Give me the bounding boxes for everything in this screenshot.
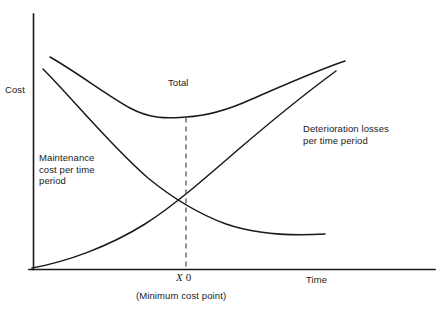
- figure-container: Cost Total Deterioration losses per time…: [0, 0, 442, 310]
- maintenance-cost-curve-label: Maintenance cost per time period: [39, 152, 95, 187]
- total-cost-curve: [50, 57, 345, 118]
- total-cost-curve-label: Total: [168, 77, 189, 89]
- optimum-symbol-subscript: 0: [186, 271, 192, 283]
- optimum-symbol-x: X: [176, 271, 183, 283]
- x-axis-label: Time: [306, 274, 327, 286]
- minimum-cost-point-note: (Minimum cost point): [136, 290, 226, 302]
- optimum-point-symbol: X 0: [176, 272, 191, 284]
- deterioration-losses-curve-label: Deterioration losses per time period: [303, 123, 389, 146]
- y-axis-label: Cost: [5, 84, 25, 96]
